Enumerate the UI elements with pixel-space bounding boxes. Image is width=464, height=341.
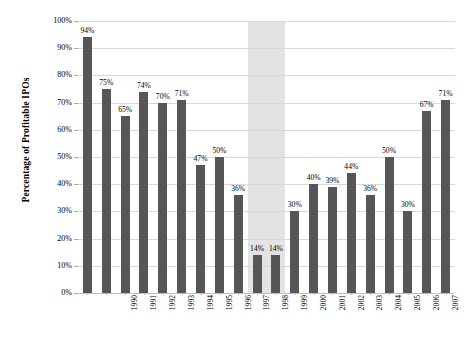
y-tick-mark-100 [74,21,78,22]
x-tick-label-2001: 2001 [339,295,347,335]
x-tick-mark-1994 [163,293,164,295]
x-tick-label-1997: 1997 [263,295,271,335]
x-tick-mark-2008 [427,293,428,295]
y-tick-mark-20 [74,239,78,240]
x-tick-label-1996: 1996 [245,295,253,335]
x-tick-mark-1993 [144,293,145,295]
x-tick-label-1995: 1995 [226,295,234,335]
x-tick-mark-2000 [276,293,277,295]
x-tick-mark-1995 [182,293,183,295]
x-tick-mark-1992 [125,293,126,295]
x-tick-label-1990: 1990 [131,295,139,335]
y-tick-label-40: 40% [40,180,72,188]
y-tick-label-50: 50% [40,153,72,161]
y-axis-ticks: 0%10%20%30%40%50%60%70%80%90%100% [0,21,464,293]
x-tick-mark-2005 [370,293,371,295]
y-tick-label-80: 80% [40,71,72,79]
y-tick-mark-50 [74,157,78,158]
y-tick-label-70: 70% [40,99,72,107]
y-tick-label-60: 60% [40,126,72,134]
y-tick-mark-0 [74,293,78,294]
y-tick-mark-80 [74,75,78,76]
y-tick-label-90: 90% [40,44,72,52]
x-tick-label-2004: 2004 [395,295,403,335]
x-tick-label-2006: 2006 [433,295,441,335]
x-tick-mark-2009 [446,293,447,295]
x-tick-mark-2007 [408,293,409,295]
x-tick-mark-2006 [389,293,390,295]
x-tick-label-1993: 1993 [188,295,196,335]
x-tick-label-2005: 2005 [414,295,422,335]
x-tick-mark-1996 [201,293,202,295]
x-tick-mark-1990 [87,293,88,295]
y-tick-mark-40 [74,184,78,185]
y-tick-label-30: 30% [40,207,72,215]
x-tick-label-2002: 2002 [358,295,366,335]
y-tick-mark-10 [74,266,78,267]
y-tick-mark-30 [74,211,78,212]
gridline-0 [78,293,455,294]
y-tick-mark-90 [74,48,78,49]
y-tick-mark-60 [74,130,78,131]
y-tick-label-10: 10% [40,262,72,270]
x-tick-mark-1998 [238,293,239,295]
x-tick-mark-2004 [351,293,352,295]
y-tick-label-0: 0% [40,289,72,297]
x-tick-mark-2001 [295,293,296,295]
x-tick-mark-2002 [314,293,315,295]
bar-chart: Percentage of Profitable IPOs 94%75%65%7… [0,0,464,341]
x-tick-mark-1991 [106,293,107,295]
x-tick-label-2007: 2007 [452,295,460,335]
x-tick-label-1999: 1999 [301,295,309,335]
x-tick-label-1991: 1991 [150,295,158,335]
x-tick-label-1994: 1994 [207,295,215,335]
x-tick-label-1998: 1998 [282,295,290,335]
x-tick-label-2003: 2003 [376,295,384,335]
x-tick-label-2000: 2000 [320,295,328,335]
y-tick-label-20: 20% [40,235,72,243]
x-axis-ticks: 1990199119921993199419951996199719981999… [78,295,455,339]
x-tick-mark-1997 [219,293,220,295]
x-tick-label-1992: 1992 [169,295,177,335]
y-tick-label-100: 100% [40,17,72,25]
x-tick-mark-1999 [257,293,258,295]
y-tick-mark-70 [74,103,78,104]
x-tick-mark-2003 [332,293,333,295]
